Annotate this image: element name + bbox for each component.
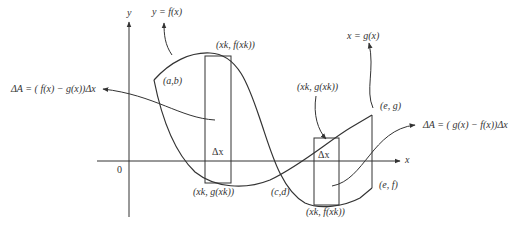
point-eg-label: (e, g) [380, 101, 401, 111]
point-xk-gxk-bottom-label: (xk, g(xk)) [193, 187, 234, 197]
point-xk-fxk-top-label: (xk, f(xk)) [216, 40, 255, 50]
right-area-formula: ΔA = ( g(x) − f(x))Δx [423, 120, 508, 130]
x-axis-label: x [405, 155, 409, 165]
point-xk-fxk-bottom-label: (xk, f(xk)) [306, 207, 345, 217]
y-axis-label: y [127, 8, 131, 18]
point-ab-label: (a,b) [163, 76, 182, 86]
area-between-curves-diagram [0, 0, 511, 233]
xk-gxk-arrow [315, 96, 326, 139]
point-ef-label: (e, f) [379, 180, 398, 190]
point-cd-label: (c,d) [271, 187, 290, 197]
point-xk-gxk-top-label: (xk, g(xk)) [297, 82, 338, 92]
origin-label: 0 [117, 165, 122, 175]
g-curve-label: x = g(x) [347, 31, 379, 41]
g-label-arrow [369, 43, 373, 108]
left-formula-arrow [103, 89, 215, 120]
left-area-formula: ΔA = ( f(x) − g(x))Δx [11, 84, 96, 94]
f-label-arrow [164, 23, 172, 55]
right-formula-arrow [332, 125, 415, 186]
f-curve-label: y = f(x) [152, 7, 182, 17]
right-rectangle-dx-label: Δx [318, 150, 329, 160]
left-rectangle-dx-label: Δx [212, 147, 223, 157]
